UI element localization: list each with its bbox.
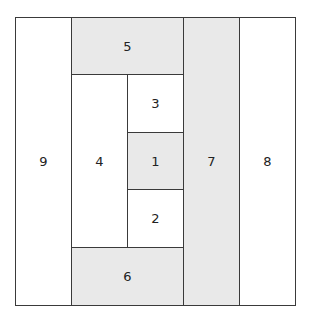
cell-label: 6 — [123, 269, 131, 284]
cell-label: 5 — [123, 39, 131, 54]
cell-label: 8 — [263, 154, 271, 169]
cell-9: 9 — [15, 17, 72, 306]
cell-label: 7 — [207, 154, 215, 169]
cell-6: 6 — [71, 247, 184, 306]
cell-label: 9 — [39, 154, 47, 169]
cell-3: 3 — [127, 74, 184, 133]
cell-8: 8 — [239, 17, 296, 306]
cell-label: 4 — [95, 154, 103, 169]
cell-7: 7 — [183, 17, 240, 306]
cell-1: 1 — [127, 132, 184, 190]
cell-2: 2 — [127, 189, 184, 248]
cell-5: 5 — [71, 17, 184, 75]
cell-label: 2 — [151, 211, 159, 226]
cell-label: 1 — [151, 154, 159, 169]
cell-label: 3 — [151, 96, 159, 111]
cell-4: 4 — [71, 74, 128, 248]
